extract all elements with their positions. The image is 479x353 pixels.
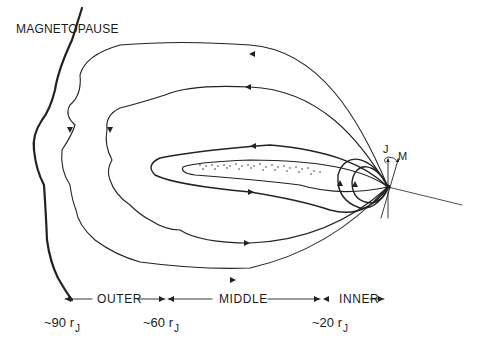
magnetopause-label: MAGNETOPAUSE bbox=[16, 22, 119, 36]
magnetopause-line bbox=[34, 8, 82, 300]
distance-90-label: ~90 rJ bbox=[44, 315, 80, 334]
planet-jupiter bbox=[386, 185, 391, 190]
rotation-arrow-icon bbox=[384, 157, 396, 163]
region-middle-label: MIDDLE bbox=[219, 292, 268, 306]
field-line-outer-2 bbox=[106, 86, 388, 243]
distance-60-label: ~60 rJ bbox=[143, 315, 179, 334]
spin-axis-label: J bbox=[383, 143, 389, 155]
magnetic-axis-label: M bbox=[398, 150, 407, 162]
plasma-sheet-dots bbox=[199, 163, 321, 175]
distance-20-label: ~20 rJ bbox=[312, 315, 348, 334]
region-outer-label: OUTER bbox=[97, 292, 142, 306]
region-inner-label: INNER bbox=[339, 292, 379, 306]
sun-direction-line bbox=[388, 187, 462, 205]
field-line-outer-1 bbox=[62, 43, 388, 269]
